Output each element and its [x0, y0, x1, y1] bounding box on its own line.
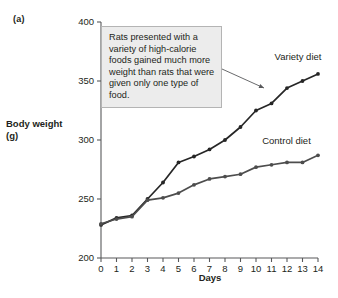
series-point: [161, 181, 165, 185]
series-label: Control diet: [262, 135, 311, 146]
y-tick-label: 350: [78, 75, 94, 86]
series-point: [270, 102, 274, 106]
y-tick-label: 200: [78, 252, 94, 263]
series-point: [130, 215, 134, 219]
series-point: [161, 196, 165, 200]
series-label: Variety diet: [275, 51, 322, 62]
series-point: [239, 125, 243, 129]
y-tick-label: 250: [78, 193, 94, 204]
series-point: [316, 72, 320, 76]
series-point: [146, 198, 150, 202]
series-point: [254, 165, 258, 169]
series-point: [208, 177, 212, 181]
series-point: [192, 183, 196, 187]
series-point: [270, 163, 274, 167]
series-point: [316, 153, 320, 157]
series-point: [285, 161, 289, 165]
callout-annotation: Rats presented with a variety of high-ca…: [101, 26, 222, 108]
series-point: [115, 217, 119, 221]
series-point: [99, 222, 103, 226]
series-point: [254, 109, 258, 113]
series-point: [177, 161, 181, 165]
series-point: [285, 86, 289, 90]
x-axis-title: Days: [101, 272, 319, 283]
series-point: [301, 79, 305, 83]
series-point: [239, 172, 243, 176]
series-point: [301, 161, 305, 165]
y-tick-label: 300: [78, 134, 94, 145]
series-point: [223, 138, 227, 142]
series-point: [208, 148, 212, 152]
figure-panel: (a) Body weight (g) 20025030035040001234…: [0, 0, 338, 298]
y-tick-label: 400: [78, 16, 94, 27]
series-point: [192, 155, 196, 159]
series-point: [223, 175, 227, 179]
series-point: [177, 191, 181, 195]
